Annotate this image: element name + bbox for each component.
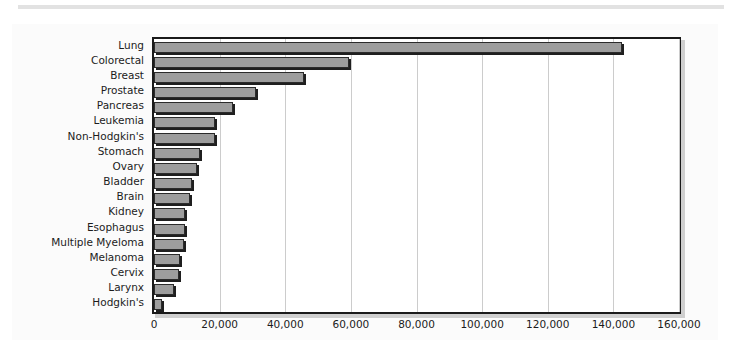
bar-row — [154, 41, 679, 57]
category-label: Melanoma — [89, 251, 144, 263]
category-label: Ovary — [113, 160, 144, 172]
category-label: Stomach — [98, 145, 144, 157]
category-label: Brain — [116, 190, 144, 202]
bar-row — [154, 116, 679, 132]
bar[interactable] — [154, 224, 185, 235]
bar[interactable] — [154, 72, 304, 83]
bar-series — [154, 39, 683, 316]
bar[interactable] — [154, 193, 190, 204]
chart-figure-card: LungColorectalBreastProstatePancreasLeuk… — [12, 24, 718, 340]
category-label: Breast — [110, 69, 144, 81]
category-label: Leukemia — [93, 114, 144, 126]
bar-row — [154, 162, 679, 178]
bar[interactable] — [154, 299, 162, 310]
bar[interactable] — [154, 133, 215, 144]
value-tick-label: 100,000 — [460, 318, 503, 330]
category-label: Lung — [118, 39, 144, 51]
bar[interactable] — [154, 254, 180, 265]
bar[interactable] — [154, 269, 179, 280]
bar-row — [154, 253, 679, 269]
bar[interactable] — [154, 57, 349, 68]
category-label: Esophagus — [87, 221, 144, 233]
category-label: Colorectal — [91, 54, 144, 66]
category-label: Cervix — [111, 266, 144, 278]
category-label: Larynx — [108, 281, 144, 293]
bar-row — [154, 223, 679, 239]
value-axis-labels: 020,00040,00060,00080,000100,000120,0001… — [12, 318, 718, 338]
category-label: Kidney — [108, 205, 144, 217]
category-label: Non-Hodgkin's — [68, 130, 144, 142]
top-divider — [18, 5, 724, 9]
bar-row — [154, 268, 679, 284]
bar-row — [154, 207, 679, 223]
bar-row — [154, 192, 679, 208]
bar-row — [154, 132, 679, 148]
bar-row — [154, 56, 679, 72]
bar[interactable] — [154, 239, 184, 250]
category-label: Prostate — [101, 84, 144, 96]
value-tick-label: 140,000 — [592, 318, 635, 330]
value-tick-label: 80,000 — [398, 318, 435, 330]
value-tick-label: 160,000 — [657, 318, 700, 330]
bar-row — [154, 147, 679, 163]
bar[interactable] — [154, 42, 622, 53]
bar-row — [154, 86, 679, 102]
category-axis-labels: LungColorectalBreastProstatePancreasLeuk… — [12, 37, 148, 314]
bar-row — [154, 283, 679, 299]
bar[interactable] — [154, 102, 233, 113]
category-label: Multiple Myeloma — [51, 236, 144, 248]
bar-row — [154, 71, 679, 87]
bar[interactable] — [154, 284, 174, 295]
bar[interactable] — [154, 163, 197, 174]
category-label: Bladder — [103, 175, 144, 187]
value-tick-label: 40,000 — [267, 318, 304, 330]
bar[interactable] — [154, 117, 215, 128]
bar[interactable] — [154, 87, 256, 98]
value-tick-label: 60,000 — [333, 318, 370, 330]
bar-row — [154, 298, 679, 314]
bar[interactable] — [154, 178, 192, 189]
bar-chart: LungColorectalBreastProstatePancreasLeuk… — [12, 24, 718, 340]
value-tick-label: 0 — [151, 318, 158, 330]
value-tick-label: 20,000 — [201, 318, 238, 330]
category-label: Hodgkin's — [92, 296, 144, 308]
bar-row — [154, 177, 679, 193]
bar-row — [154, 238, 679, 254]
bar[interactable] — [154, 148, 200, 159]
bar-row — [154, 101, 679, 117]
category-label: Pancreas — [97, 99, 144, 111]
plot-area — [152, 37, 681, 314]
value-tick-label: 120,000 — [526, 318, 569, 330]
bar[interactable] — [154, 208, 185, 219]
